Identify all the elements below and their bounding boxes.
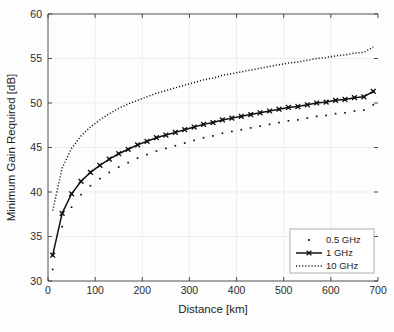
legend-label-1[interactable]: 1 GHz xyxy=(326,247,353,258)
y-axis-label: Minimum Gain Required [dB] xyxy=(5,74,17,222)
x-axis-label: Distance [km] xyxy=(178,303,248,315)
legend-label-0[interactable]: 0.5 GHz xyxy=(326,234,361,245)
x-tick-label: 400 xyxy=(228,284,246,296)
y-tick-label: 30 xyxy=(30,275,42,287)
legend-label-2[interactable]: 10 GHz xyxy=(326,260,358,271)
x-tick-label: 100 xyxy=(86,284,104,296)
x-tick-label: 200 xyxy=(134,284,152,296)
y-tick-label: 50 xyxy=(30,97,42,109)
x-tick-label: 300 xyxy=(181,284,199,296)
line-chart: 010020030040050060070030354045505560 Dis… xyxy=(0,0,394,332)
legend-sample-dot xyxy=(308,239,310,241)
y-tick-label: 60 xyxy=(30,8,42,20)
y-tick-label: 35 xyxy=(30,230,42,242)
x-tick-label: 700 xyxy=(369,284,387,296)
y-tick-label: 45 xyxy=(30,141,42,153)
chart-figure: 010020030040050060070030354045505560 Dis… xyxy=(0,0,394,332)
y-tick-label: 55 xyxy=(30,52,42,64)
y-tick-label: 40 xyxy=(30,186,42,198)
x-tick-label: 500 xyxy=(275,284,293,296)
plot-area: 010020030040050060070030354045505560 Dis… xyxy=(0,0,394,332)
x-tick-label: 0 xyxy=(45,284,51,296)
x-tick-label: 600 xyxy=(322,284,340,296)
legend[interactable]: 0.5 GHz1 GHz10 GHz xyxy=(290,229,374,273)
chart-background xyxy=(0,0,394,332)
